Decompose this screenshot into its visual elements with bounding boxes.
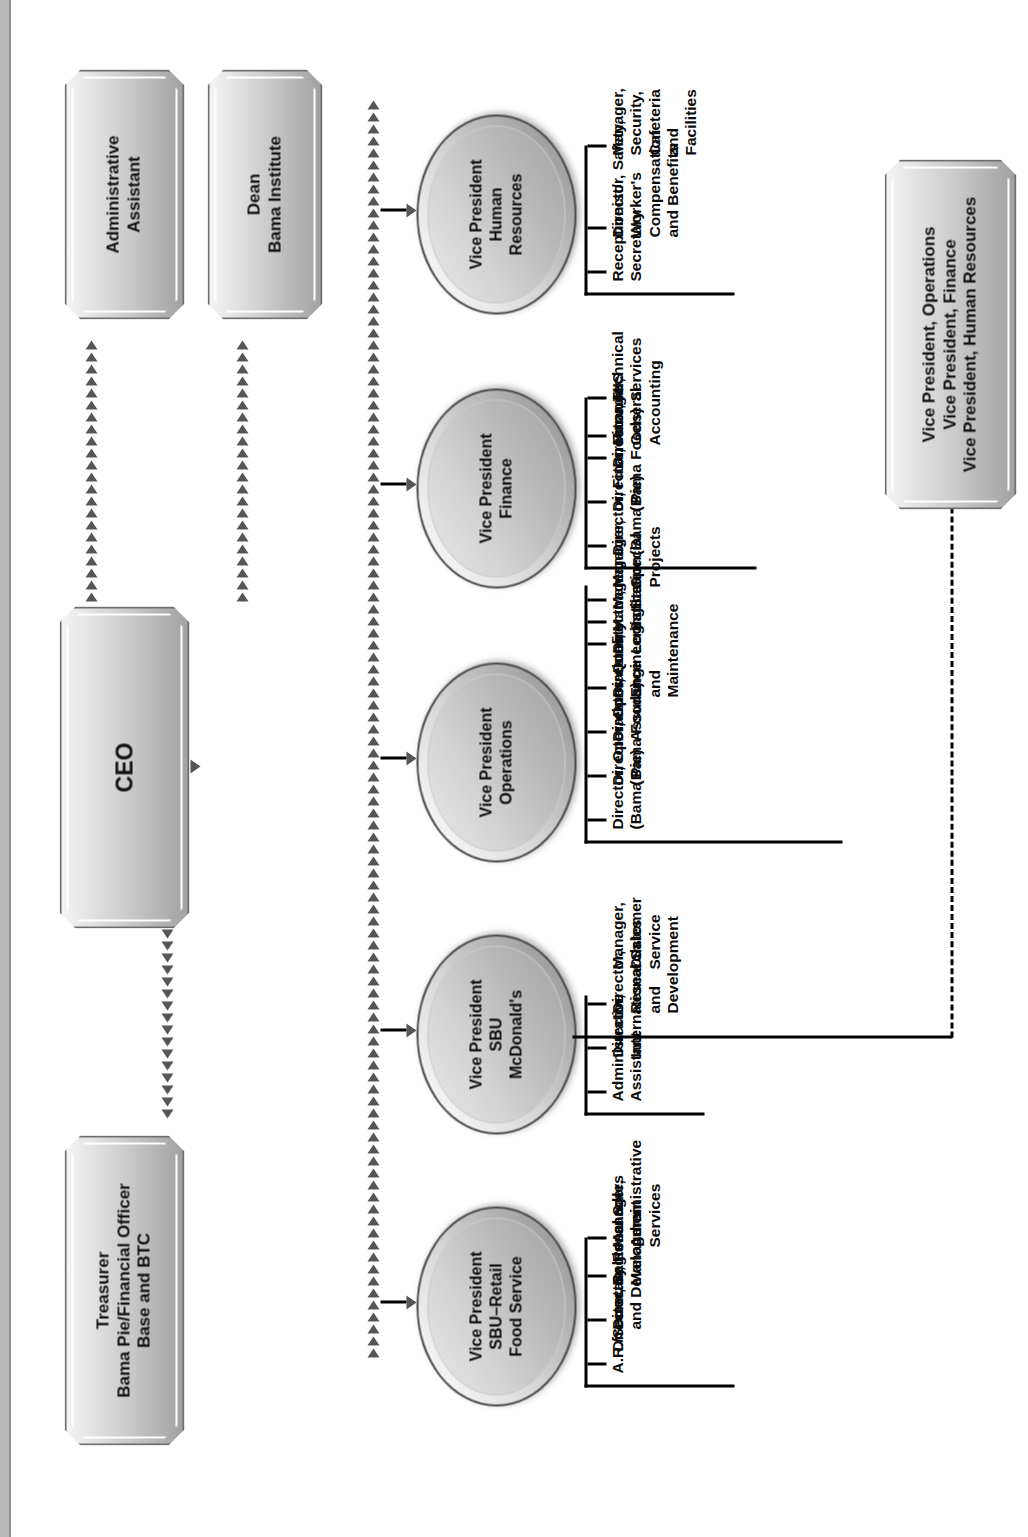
- node-vp-sbu-mcdonalds-label: Vice President SBU McDonald's: [466, 973, 525, 1095]
- arrow-glyph: [367, 832, 379, 841]
- arrow-glyph: [161, 929, 173, 938]
- report-item: Manager, Customer Service: [608, 885, 663, 969]
- arrow-head-icon: [406, 751, 416, 765]
- arrow-glyph: [85, 388, 97, 397]
- node-ceo[interactable]: CEO: [59, 606, 189, 928]
- node-vp-finance-label: Vice President Finance: [476, 427, 516, 549]
- arrow-glyph: [367, 340, 379, 349]
- arrow-glyph: [236, 424, 248, 433]
- arrow-glyph: [367, 844, 379, 853]
- reports-tick: [587, 434, 606, 437]
- arrow-glyph: [367, 1312, 379, 1321]
- arrow-glyph: [367, 664, 379, 673]
- arrow-glyph: [367, 280, 379, 289]
- node-dotted-line-vps[interactable]: Vice President, Operations Vice Presiden…: [884, 159, 1016, 509]
- arrow-glyph: [85, 412, 97, 421]
- arrow-glyph: [161, 1061, 173, 1070]
- arrow-glyph: [367, 808, 379, 817]
- arrow-glyph: [85, 400, 97, 409]
- arrow-glyph: [85, 580, 97, 589]
- arrow-glyph: [367, 364, 379, 373]
- arrow-glyph: [367, 940, 379, 949]
- arrow-glyph: [367, 928, 379, 937]
- arrow-glyph: [367, 112, 379, 121]
- reports-tick: [587, 730, 606, 733]
- arrow-glyph: [367, 412, 379, 421]
- arrow-glyph: [85, 352, 97, 361]
- connector-bus-to-vp-finance: [380, 477, 416, 491]
- node-vp-sbu-mcdonalds[interactable]: Vice President SBU McDonald's: [416, 934, 576, 1134]
- arrow-glyph: [367, 1096, 379, 1105]
- arrow-glyph: [161, 953, 173, 962]
- arrow-glyph: [367, 1252, 379, 1261]
- connector-dotted-reporting-line: [950, 507, 953, 1037]
- arrow-glyph: [236, 580, 248, 589]
- arrow-glyph: [367, 748, 379, 757]
- reports-tick: [587, 500, 606, 503]
- arrow-glyph: [367, 448, 379, 457]
- arrow-glyph: [367, 1012, 379, 1021]
- rotated-diagram-wrapper: Treasurer Bama Pie/Financial Officer Bas…: [0, 0, 1028, 1537]
- connector-ceo-to-administrative-assistant: [84, 323, 98, 601]
- arrow-glyph: [161, 965, 173, 974]
- arrow-head-icon: [406, 1023, 416, 1037]
- arrow-glyph: [367, 172, 379, 181]
- arrow-glyph: [367, 268, 379, 277]
- node-vp-retail-food-service[interactable]: Vice President SBU–Retail Food Service: [416, 1206, 576, 1406]
- reports-vp-finance: Director, Finance (Bama Pie) Director, F…: [572, 339, 872, 569]
- org-chart-canvas: Treasurer Bama Pie/Financial Officer Bas…: [0, 0, 1028, 1537]
- report-item: Manager, Security, Cafeteria and Facilit…: [608, 65, 699, 155]
- arrow-glyph: [367, 988, 379, 997]
- arrow-glyph: [367, 1072, 379, 1081]
- arrow-head-icon: [406, 1295, 416, 1309]
- reports-tick: [587, 1046, 606, 1049]
- reports-spine: [584, 397, 587, 569]
- node-vp-finance[interactable]: Vice President Finance: [416, 388, 576, 588]
- reports-spine: [584, 840, 842, 843]
- node-treasurer[interactable]: Treasurer Bama Pie/Financial Officer Bas…: [64, 1135, 184, 1445]
- arrow-glyph: [367, 568, 379, 577]
- node-dean-bama-institute[interactable]: Dean Bama Institute: [207, 69, 322, 319]
- arrow-glyph: [367, 1348, 379, 1357]
- arrow-glyph: [85, 592, 97, 601]
- arrow-glyph: [236, 400, 248, 409]
- org-chart-page: Treasurer Bama Pie/Financial Officer Bas…: [0, 0, 1028, 1537]
- arrow-glyph: [236, 508, 248, 517]
- arrow-glyph: [161, 1025, 173, 1034]
- reports-tick: [587, 642, 606, 645]
- connector-dotted-riser: [572, 1035, 952, 1038]
- arrow-glyph: [161, 1037, 173, 1046]
- arrow-glyph: [367, 316, 379, 325]
- arrow-glyph: [367, 1240, 379, 1249]
- arrow-glyph: [85, 532, 97, 541]
- arrow-glyph: [367, 880, 379, 889]
- arrow-glyph: [85, 496, 97, 505]
- node-dean-label: Dean Bama Institute: [244, 125, 285, 262]
- arrow-glyph: [367, 352, 379, 361]
- arrow-glyph: [236, 448, 248, 457]
- node-vp-operations[interactable]: Vice President Operations: [416, 662, 576, 862]
- node-administrative-assistant[interactable]: Administrative Assistant: [64, 69, 184, 319]
- arrow-glyph: [367, 184, 379, 193]
- node-vp-human-resources[interactable]: Vice President Human Resources: [416, 114, 576, 314]
- arrow-glyph: [367, 196, 379, 205]
- arrow-glyph: [236, 496, 248, 505]
- arrow-glyph: [367, 520, 379, 529]
- arrow-glyph: [367, 892, 379, 901]
- arrow-glyph: [236, 364, 248, 373]
- arrow-glyph: [367, 292, 379, 301]
- reports-spine: [584, 995, 587, 1115]
- arrow-glyph: [367, 1336, 379, 1345]
- arrow-glyph: [161, 977, 173, 986]
- arrow-glyph: [367, 616, 379, 625]
- connector-ceo-to-treasurer: [160, 929, 174, 1133]
- arrow-glyph: [367, 1108, 379, 1117]
- reports-spine: [584, 1112, 704, 1115]
- arrow-glyph: [85, 436, 97, 445]
- arrow-glyph: [367, 1144, 379, 1153]
- reports-tick: [587, 1090, 606, 1093]
- node-vp-operations-label: Vice President Operations: [476, 701, 516, 823]
- arrow-head-icon: [190, 759, 200, 773]
- reports-tick: [587, 1274, 606, 1277]
- reports-tick: [587, 144, 606, 147]
